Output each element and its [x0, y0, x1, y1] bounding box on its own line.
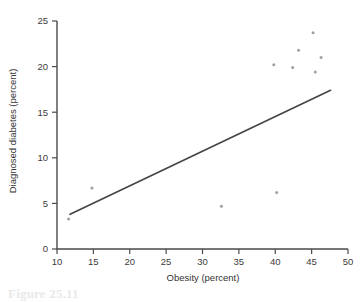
y-axis-tick-label: 20 — [37, 61, 48, 72]
x-axis-tick-label: 50 — [343, 256, 354, 267]
x-axis-title: Obesity (percent) — [167, 272, 240, 283]
x-axis-tick-label: 35 — [234, 256, 245, 267]
scatter-point-outlier — [314, 71, 317, 74]
scatter-point-outlier — [90, 186, 93, 189]
x-axis-tick-label: 20 — [124, 256, 135, 267]
y-axis-tick-label: 15 — [37, 107, 48, 118]
y-axis-tick-label: 10 — [37, 152, 48, 163]
y-axis-tick-label: 25 — [37, 15, 48, 26]
scatter-point-outlier — [320, 56, 323, 59]
scatter-point-outlier — [275, 191, 278, 194]
scatter-point-outlier — [312, 31, 315, 34]
y-axis-title: Diagnosed diabetes (percent) — [7, 69, 18, 194]
y-axis-tick-label: 5 — [43, 198, 48, 209]
x-axis-tick-label: 40 — [270, 256, 281, 267]
x-axis-tick-label: 25 — [161, 256, 172, 267]
x-axis-tick-label: 10 — [52, 256, 63, 267]
y-axis-tick-label: 0 — [43, 243, 48, 254]
scatter-point-outlier — [297, 49, 300, 52]
scatter-point-outlier — [67, 217, 70, 220]
scatter-point-outlier — [291, 66, 294, 69]
x-axis-tick-label: 15 — [88, 256, 99, 267]
x-axis-tick-label: 45 — [306, 256, 317, 267]
scatter-point-outlier — [220, 205, 223, 208]
x-axis-tick-label: 30 — [197, 256, 208, 267]
scatter-point-outlier — [272, 63, 275, 66]
